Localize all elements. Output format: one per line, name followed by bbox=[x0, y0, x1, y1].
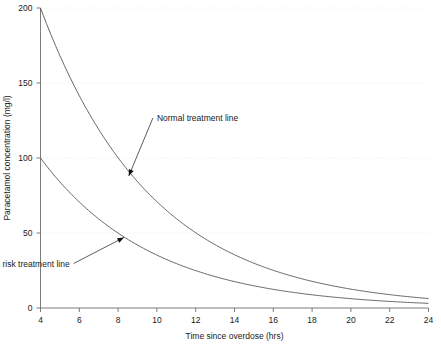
x-tick-label-10: 10 bbox=[152, 315, 162, 325]
annotation-leader-line-0 bbox=[129, 118, 153, 176]
x-tick-label-24: 24 bbox=[424, 315, 434, 325]
paracetamol-nomogram-chart: 4681012141618202224 050100150200 Normal … bbox=[0, 0, 441, 349]
x-axis-title: Time since overdose (hrs) bbox=[186, 331, 284, 341]
y-axis-title: Paracetamol concentration (mg/l) bbox=[2, 95, 12, 220]
x-tick-label-18: 18 bbox=[307, 315, 317, 325]
x-tick-label-6: 6 bbox=[77, 315, 82, 325]
curve-normal-treatment-line bbox=[41, 8, 429, 299]
axes-group bbox=[41, 8, 429, 308]
annotations-group: Normal treatment lineHigh risk treatment… bbox=[0, 113, 238, 269]
x-axis-ticks: 4681012141618202224 bbox=[38, 308, 433, 325]
x-tick-label-14: 14 bbox=[230, 315, 240, 325]
annotation-label-high-risk-treatment-line: High risk treatment line bbox=[0, 259, 70, 269]
annotation-arrowhead-1 bbox=[117, 238, 124, 243]
x-tick-label-20: 20 bbox=[346, 315, 356, 325]
y-tick-label-200: 200 bbox=[18, 3, 32, 13]
x-tick-label-22: 22 bbox=[385, 315, 395, 325]
x-tick-label-4: 4 bbox=[38, 315, 43, 325]
data-curves-group bbox=[41, 8, 429, 303]
x-tick-label-16: 16 bbox=[269, 315, 279, 325]
y-tick-label-50: 50 bbox=[23, 228, 33, 238]
annotation-leader-line-1 bbox=[74, 238, 124, 264]
y-tick-label-0: 0 bbox=[28, 303, 33, 313]
y-tick-label-100: 100 bbox=[18, 153, 32, 163]
x-tick-label-8: 8 bbox=[116, 315, 121, 325]
y-tick-label-150: 150 bbox=[18, 78, 32, 88]
curve-high-risk-treatment-line bbox=[41, 158, 429, 303]
chart-container: 4681012141618202224 050100150200 Normal … bbox=[0, 0, 441, 349]
annotation-label-normal-treatment-line: Normal treatment line bbox=[157, 113, 239, 123]
x-tick-label-12: 12 bbox=[191, 315, 201, 325]
